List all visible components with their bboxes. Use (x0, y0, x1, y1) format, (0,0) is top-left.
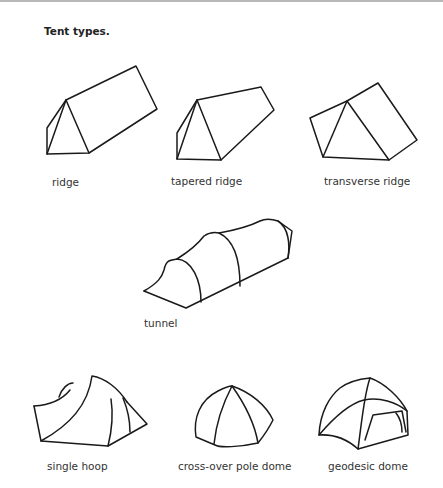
label-cross-over-pole-dome: cross-over pole dome (178, 460, 292, 472)
cross-over-pole-dome-tent-icon (195, 386, 273, 447)
ridge-tent-icon (47, 66, 157, 154)
label-tapered-ridge: tapered ridge (171, 175, 242, 187)
tapered-ridge-tent-icon (177, 87, 274, 160)
label-transverse-ridge: transverse ridge (324, 175, 410, 187)
label-ridge: ridge (52, 176, 79, 188)
label-single-hoop: single hoop (47, 460, 108, 472)
label-geodesic-dome: geodesic dome (328, 460, 408, 472)
transverse-ridge-tent-icon (310, 83, 417, 160)
geodesic-dome-tent-icon (319, 378, 408, 449)
tent-illustrations (0, 0, 443, 488)
tunnel-tent-icon (144, 219, 292, 308)
label-tunnel: tunnel (144, 317, 177, 329)
single-hoop-tent-icon (34, 376, 147, 446)
